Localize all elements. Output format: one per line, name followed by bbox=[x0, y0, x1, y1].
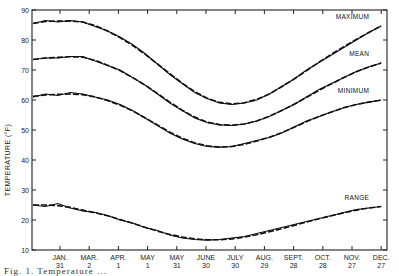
plot-frame bbox=[32, 10, 387, 250]
y-tick-label: 60 bbox=[21, 97, 29, 104]
series-observed-line bbox=[33, 204, 381, 241]
x-tick-month: MAR. bbox=[80, 254, 98, 261]
y-tick-label: 10 bbox=[21, 247, 29, 254]
x-tick-day: 27 bbox=[348, 262, 356, 269]
series-smoothed-line bbox=[33, 57, 381, 125]
y-tick-label: 40 bbox=[21, 157, 29, 164]
series-label-mean: MEAN bbox=[349, 50, 369, 57]
x-tick-month: MAY bbox=[140, 254, 155, 261]
series-smoothed-line bbox=[33, 94, 381, 147]
x-tick-month: NOV. bbox=[344, 254, 361, 261]
y-tick-label: 70 bbox=[21, 67, 29, 74]
y-tick-label: 80 bbox=[21, 37, 29, 44]
y-tick-label: 20 bbox=[21, 217, 29, 224]
x-tick-day: 30 bbox=[231, 262, 239, 269]
x-tick-day: 27 bbox=[377, 262, 385, 269]
x-tick-month: SEPT. bbox=[284, 254, 304, 261]
series-observed-line bbox=[33, 21, 381, 105]
y-tick-label: 50 bbox=[21, 127, 29, 134]
x-tick-month: JAN. bbox=[52, 254, 67, 261]
x-tick-day: 30 bbox=[202, 262, 210, 269]
series-smoothed-line bbox=[33, 21, 381, 104]
x-tick-day: 1 bbox=[146, 262, 150, 269]
x-tick-day: 29 bbox=[261, 262, 269, 269]
series-label-range: RANGE bbox=[345, 194, 370, 201]
x-tick-day: 1 bbox=[116, 262, 120, 269]
x-tick-month: JULY bbox=[227, 254, 244, 261]
y-axis-title: TEMPERATURE (°F) bbox=[4, 124, 12, 196]
series-label-minimum: MINIMUM bbox=[338, 87, 369, 94]
y-tick-label: 30 bbox=[21, 187, 29, 194]
x-tick-month: DEC. bbox=[373, 254, 390, 261]
x-tick-day: 28 bbox=[319, 262, 327, 269]
x-tick-month: AUG. bbox=[256, 254, 273, 261]
x-tick-month: MAY bbox=[169, 254, 184, 261]
series-smoothed-line bbox=[33, 205, 381, 240]
x-tick-day: 28 bbox=[290, 262, 298, 269]
x-tick-month: JUNE bbox=[197, 254, 216, 261]
figure-caption: Fig. 1. Temperature ... bbox=[4, 266, 107, 276]
series-observed-line bbox=[33, 93, 381, 148]
x-tick-day: 31 bbox=[173, 262, 181, 269]
x-tick-month: APR. bbox=[110, 254, 126, 261]
series-lines bbox=[33, 21, 381, 241]
series-observed-line bbox=[33, 57, 381, 126]
series-label-maximum: MAXIMUM bbox=[336, 13, 370, 20]
y-tick-label: 90 bbox=[21, 7, 29, 14]
x-tick-month: OCT. bbox=[315, 254, 331, 261]
